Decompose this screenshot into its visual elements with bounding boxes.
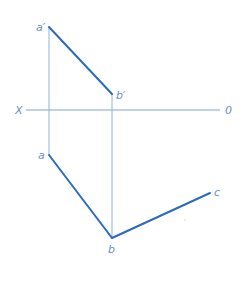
stray-dot [184,219,185,220]
segment-a-b [49,155,112,238]
axis-label-0: 0 [225,104,232,117]
projection-diagram: X 0 a′ b′ a b c [0,0,251,281]
label-c: c [214,186,220,199]
label-a-prime: a′ [36,21,46,34]
segment-b-c [112,193,210,238]
segment-a-prime-b-prime [49,27,112,94]
label-b: b [108,243,115,256]
axis-label-x: X [14,104,23,117]
label-b-prime: b′ [116,89,126,102]
label-a: a [38,149,45,162]
